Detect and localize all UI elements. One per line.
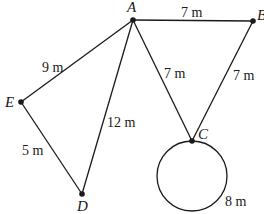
edge-length-label: 9 m: [42, 60, 64, 75]
edge-length-label: 7 m: [233, 68, 255, 83]
edge-length-label: 5 m: [22, 143, 44, 158]
edge-ae: [21, 20, 133, 102]
edge-length-label: 7 m: [164, 66, 186, 81]
point-a-label: A: [126, 0, 137, 15]
point-b-dot: [250, 18, 256, 24]
point-d-label: D: [76, 198, 88, 214]
circle: [157, 141, 227, 211]
circle-group: [157, 141, 227, 211]
edge-length-label: 7 m: [181, 5, 203, 20]
point-d-dot: [79, 191, 85, 197]
point-c-label: C: [198, 126, 209, 142]
point-e-dot: [18, 99, 24, 105]
point-b-label: B: [257, 7, 264, 23]
point-e-label: E: [4, 94, 14, 110]
geometry-diagram: 7 m9 m12 m7 m7 m5 m8 mABCDE: [0, 0, 264, 214]
point-c-dot: [189, 138, 195, 144]
edge-ab: [133, 20, 253, 21]
circle-circumference-label: 8 m: [225, 194, 247, 209]
point-a-dot: [130, 17, 136, 23]
edges-group: [21, 20, 253, 194]
labels-group: 7 m9 m12 m7 m7 m5 m8 mABCDE: [4, 0, 264, 214]
points-group: [18, 17, 256, 197]
edge-length-label: 12 m: [107, 115, 136, 130]
edge-ad: [82, 20, 133, 194]
